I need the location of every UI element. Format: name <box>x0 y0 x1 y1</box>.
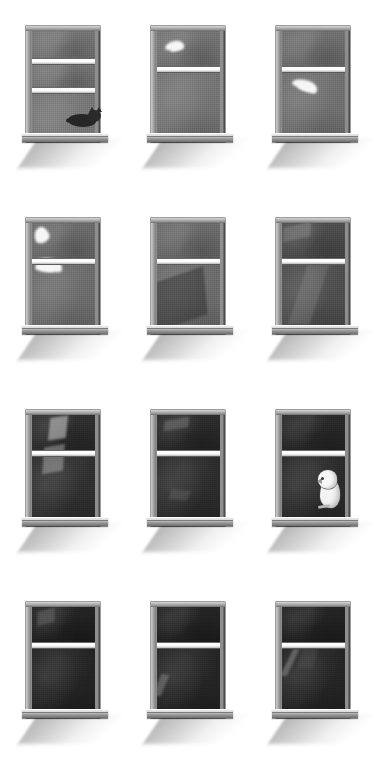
window-2-cloud-upper-pane: empty <box>151 26 225 142</box>
window-sill <box>22 325 108 334</box>
sky-fill <box>157 607 220 643</box>
window-sill <box>147 517 233 526</box>
sky-fill <box>32 31 95 59</box>
sash-rail-1 <box>32 643 95 648</box>
window-pane-1 <box>282 607 345 643</box>
cat-ear-right <box>96 107 102 112</box>
light-beam-2 <box>42 443 65 473</box>
window-sill <box>272 517 358 526</box>
cat-on-sill <box>68 108 104 130</box>
sky-fill <box>32 648 95 709</box>
sash-rail-1 <box>282 451 345 456</box>
window-glass-opening <box>157 415 220 517</box>
sky-fill <box>282 607 345 643</box>
window-4-large-cloud: empty <box>26 218 100 334</box>
sash-rail-1 <box>282 67 345 72</box>
sky-fill <box>282 415 345 451</box>
window-cell-3: empty <box>250 0 375 192</box>
window-glass-opening <box>157 223 220 325</box>
window-5-diagonal-horizon: empty <box>151 218 225 334</box>
window-cell-2: empty <box>125 0 250 192</box>
window-cast-shadow <box>267 138 373 168</box>
sash-rail-1 <box>157 451 220 456</box>
window-pane-2 <box>32 648 95 709</box>
window-cell-7: empty <box>0 384 125 576</box>
window-sill <box>147 709 233 718</box>
window-sill <box>147 325 233 334</box>
window-cell-11: empty <box>125 576 250 768</box>
window-3-cloud-lower-pane: empty <box>276 26 350 142</box>
window-pane-1 <box>32 31 95 59</box>
sash-rail-1 <box>282 643 345 648</box>
window-9-bird-on-sill: white owl perched on sill <box>276 410 350 526</box>
window-cast-shadow <box>142 714 248 744</box>
window-10-night-patch: empty <box>26 602 100 718</box>
window-cast-shadow <box>17 330 123 360</box>
window-pane-1 <box>157 607 220 643</box>
window-cast-shadow <box>142 330 248 360</box>
window-sill <box>22 517 108 526</box>
window-cell-4: empty <box>0 192 125 384</box>
window-pane-2 <box>32 64 95 88</box>
window-6-dusk-shape: empty <box>276 218 350 334</box>
window-cast-shadow <box>17 714 123 744</box>
sash-rail-1 <box>157 67 220 72</box>
window-1-cat-on-sill: sleeping cat on sill <box>26 26 100 142</box>
window-sill <box>272 133 358 142</box>
window-glass-opening <box>32 223 95 325</box>
window-cast-shadow <box>267 714 373 744</box>
sky-fill <box>282 72 345 133</box>
window-pane-2 <box>157 72 220 133</box>
window-sill <box>272 709 358 718</box>
sky-fill <box>157 72 220 133</box>
window-cell-9: white owl perched on sill <box>250 384 375 576</box>
window-pane-1 <box>157 223 220 259</box>
window-pane-2 <box>32 264 95 325</box>
sash-rail-1 <box>282 259 345 264</box>
window-glass-opening <box>32 415 95 517</box>
window-cast-shadow <box>17 138 123 168</box>
window-cell-12: empty <box>250 576 375 768</box>
window-sill <box>22 133 108 142</box>
window-cast-shadow <box>17 522 123 552</box>
light-beam-1 <box>48 416 68 441</box>
window-sill <box>147 133 233 142</box>
window-pane-2 <box>157 456 220 517</box>
window-cast-shadow <box>142 522 248 552</box>
bird-on-sill <box>316 470 344 512</box>
window-pane-1 <box>282 415 345 451</box>
sky-fill <box>282 31 345 67</box>
sash-rail-1 <box>157 259 220 264</box>
window-cell-8: empty <box>125 384 250 576</box>
window-cell-1: sleeping cat on sill <box>0 0 125 192</box>
window-7-light-beam: empty <box>26 410 100 526</box>
window-cell-10: empty <box>0 576 125 768</box>
sky-fill <box>32 264 95 325</box>
window-glass-opening <box>157 607 220 709</box>
window-sill <box>272 325 358 334</box>
window-12-night-streak-right: empty <box>276 602 350 718</box>
window-cast-shadow <box>267 522 373 552</box>
sky-fill <box>32 64 95 88</box>
window-cell-5: empty <box>125 192 250 384</box>
sash-rail-2 <box>32 88 95 93</box>
sash-rail-1 <box>32 451 95 456</box>
window-sill <box>22 709 108 718</box>
windows-grid: sleeping cat on sillemptyemptyemptyempty… <box>0 0 375 768</box>
window-cast-shadow <box>142 138 248 168</box>
bird-foot <box>317 504 329 509</box>
window-8-faint-glow: empty <box>151 410 225 526</box>
cat-ear-left <box>89 107 95 112</box>
window-cast-shadow <box>267 330 373 360</box>
window-glass-opening <box>282 31 345 133</box>
bird-eye <box>321 477 324 480</box>
sash-rail-1 <box>157 643 220 648</box>
sash-rail-1 <box>32 259 95 264</box>
window-11-night-streak: empty <box>151 602 225 718</box>
window-glass-opening <box>157 31 220 133</box>
window-cell-6: empty <box>250 192 375 384</box>
window-glass-opening <box>32 607 95 709</box>
window-pane-2 <box>282 72 345 133</box>
sky-fill <box>157 456 220 517</box>
sky-fill <box>157 223 220 259</box>
